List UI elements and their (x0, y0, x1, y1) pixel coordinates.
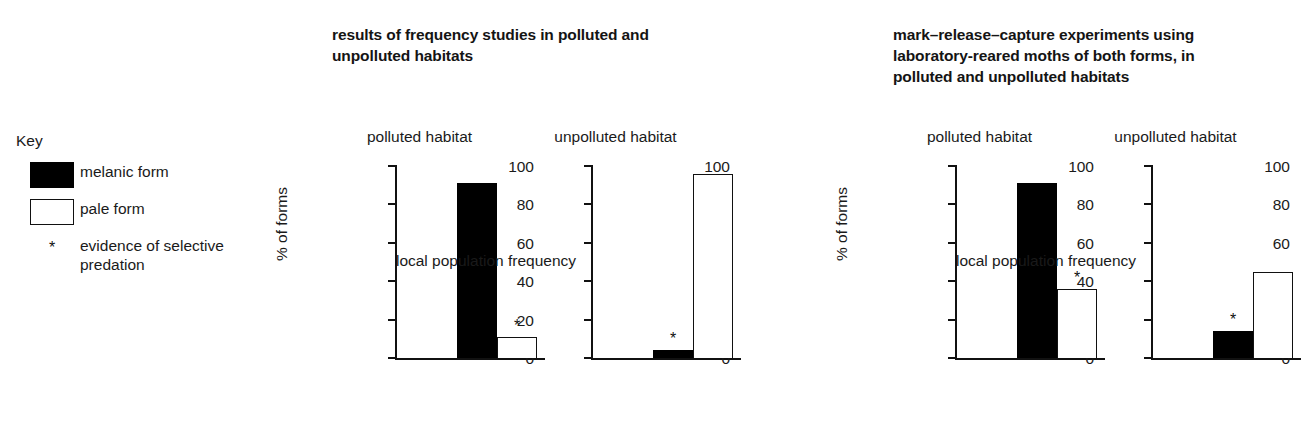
key-swatch-wrap: * (16, 236, 80, 256)
bar-melanic-form (1213, 331, 1253, 358)
y-axis-tick (948, 165, 955, 167)
y-axis-tick (388, 319, 395, 321)
y-axis-tick (1144, 165, 1151, 167)
chart-subtitle: polluted habitat (332, 128, 507, 146)
y-axis-tick (584, 242, 591, 244)
chart-subtitle: unpolluted habitat (528, 128, 703, 146)
y-axis-tick (388, 242, 395, 244)
y-axis-tick (1144, 203, 1151, 205)
key-item-pale: pale form (16, 199, 226, 225)
x-axis-line (591, 358, 741, 360)
y-axis-tick-label: 100 (704, 159, 730, 174)
key-legend: Key melanic form pale form * evidence of… (16, 132, 226, 285)
x-axis-line (1151, 358, 1301, 360)
selective-predation-asterisk-icon: * (670, 331, 676, 347)
key-swatch-wrap (16, 199, 80, 225)
y-axis-tick (388, 357, 395, 359)
y-axis-tick-label: 100 (1264, 159, 1290, 174)
filled-square-icon (30, 162, 74, 188)
chart-panel-frequency-studies: polluted habitat % of forms 100806040200… (236, 0, 736, 434)
x-axis-label: local population frequency (236, 252, 736, 270)
y-axis-tick (1144, 357, 1151, 359)
y-axis-tick (1144, 242, 1151, 244)
y-axis-tick (948, 357, 955, 359)
key-item-label: melanic form (80, 162, 169, 181)
y-axis-tick (948, 242, 955, 244)
key-item-predation: * evidence of selective predation (16, 236, 226, 274)
chart-panel-mark-release-capture: polluted habitat % of forms 100806040200… (796, 0, 1296, 434)
bar-pale-form (1253, 272, 1293, 358)
asterisk-icon: * (30, 236, 74, 256)
y-axis-tick (584, 165, 591, 167)
y-axis-tick (948, 319, 955, 321)
y-axis-tick (584, 280, 591, 282)
y-axis-tick (388, 280, 395, 282)
y-axis-tick-label: 60 (1273, 235, 1290, 250)
y-axis-tick (388, 203, 395, 205)
y-axis-tick (948, 203, 955, 205)
chart-subtitle: polluted habitat (892, 128, 1067, 146)
y-axis-tick (584, 357, 591, 359)
y-axis-label: % of forms (273, 187, 291, 261)
y-axis-tick (1144, 280, 1151, 282)
key-heading: Key (16, 132, 226, 150)
y-axis-tick (1144, 319, 1151, 321)
key-item-label: pale form (80, 199, 145, 218)
hollow-square-icon (30, 199, 74, 225)
bar-melanic-form (653, 350, 693, 358)
key-swatch-wrap (16, 162, 80, 188)
key-item-melanic: melanic form (16, 162, 226, 188)
y-axis-tick (584, 203, 591, 205)
y-axis-tick (388, 165, 395, 167)
y-axis-tick (584, 319, 591, 321)
chart-subtitle: unpolluted habitat (1088, 128, 1263, 146)
selective-predation-asterisk-icon: * (1230, 312, 1236, 328)
y-axis-tick-label: 80 (1273, 197, 1290, 212)
y-axis-label: % of forms (833, 187, 851, 261)
x-axis-label: local population frequency (796, 252, 1296, 270)
y-axis-tick (948, 280, 955, 282)
key-item-label: evidence of selective predation (80, 236, 226, 274)
